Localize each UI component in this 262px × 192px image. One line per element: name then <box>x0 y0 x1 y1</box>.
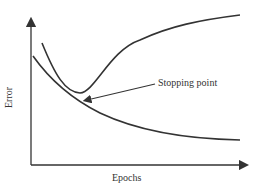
diagram-canvas <box>0 0 262 192</box>
training-error-curve <box>33 56 240 140</box>
stopping-point-label: Stopping point <box>158 77 217 88</box>
x-axis-label: Epochs <box>112 172 141 183</box>
y-axis-label: Error <box>3 87 14 108</box>
stopping-point-arrow <box>87 84 155 100</box>
